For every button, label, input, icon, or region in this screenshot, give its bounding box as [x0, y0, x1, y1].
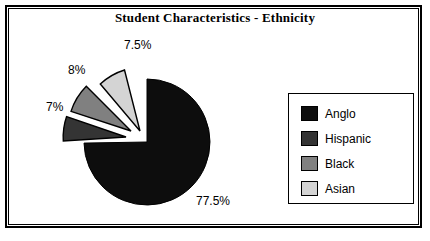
- legend-swatch-icon-black: [301, 156, 318, 171]
- chart-figure: Student Characteristics - Ethnicity 7% 8…: [0, 0, 430, 241]
- slice-value-black: 8%: [68, 63, 85, 77]
- legend-item-hispanic[interactable]: Hispanic: [301, 126, 413, 151]
- legend-item-black[interactable]: Black: [301, 151, 413, 176]
- pie-slice-anglo[interactable]: [84, 79, 210, 205]
- slice-value-asian: 7.5%: [124, 38, 151, 52]
- legend-swatch-icon-asian: [301, 181, 318, 196]
- legend-item-label: Anglo: [325, 107, 356, 121]
- slice-value-hispanic: 7%: [46, 100, 63, 114]
- legend-swatch-icon-anglo: [301, 106, 318, 121]
- legend-item-label: Asian: [325, 182, 355, 196]
- legend-item-label: Black: [325, 157, 354, 171]
- legend-item-asian[interactable]: Asian: [301, 176, 413, 201]
- chart-legend: Anglo Hispanic Black Asian: [288, 93, 414, 204]
- slice-value-anglo: 77.5%: [196, 194, 230, 208]
- legend-swatch-icon-hispanic: [301, 131, 318, 146]
- legend-item-label: Hispanic: [325, 132, 371, 146]
- legend-item-anglo[interactable]: Anglo: [301, 101, 413, 126]
